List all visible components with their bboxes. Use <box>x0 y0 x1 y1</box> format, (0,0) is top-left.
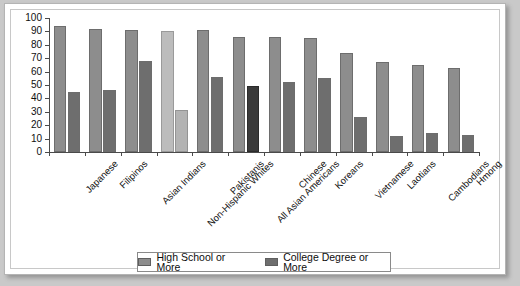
y-tick-label: 100 <box>25 13 42 23</box>
bar-college-degree <box>211 77 224 152</box>
bar-college-degree <box>283 82 296 152</box>
x-tick <box>300 152 301 156</box>
bar-high-school <box>89 29 102 152</box>
bar-college-degree <box>318 78 331 152</box>
bar-group <box>407 18 443 152</box>
bar-college-degree <box>68 92 81 152</box>
bar-high-school <box>412 65 425 152</box>
bar-high-school <box>376 62 389 152</box>
bar-group <box>228 18 264 152</box>
x-tick <box>157 152 158 156</box>
bar-group <box>49 18 85 152</box>
y-tick-label: 40 <box>31 93 42 103</box>
legend-item-high-school: High School or More <box>138 252 248 273</box>
legend-label-college-degree: College Degree or More <box>283 252 390 273</box>
bar-high-school <box>233 37 246 152</box>
legend-swatch-high-school <box>138 258 151 266</box>
x-tick <box>85 152 86 156</box>
x-tick <box>407 152 408 156</box>
y-tick-label: 50 <box>31 80 42 90</box>
bar-college-degree <box>139 61 152 152</box>
bar-group <box>300 18 336 152</box>
bar-high-school <box>125 30 138 152</box>
y-tick-label: 90 <box>31 26 42 36</box>
x-tick <box>121 152 122 156</box>
legend-swatch-college-degree <box>265 258 278 266</box>
x-tick <box>49 152 50 156</box>
bar-college-degree <box>426 133 439 152</box>
y-tick-label: 30 <box>31 107 42 117</box>
bar-high-school <box>304 38 317 152</box>
y-tick-label: 60 <box>31 67 42 77</box>
bar-college-degree <box>354 117 367 152</box>
bar-high-school <box>269 37 282 152</box>
bar-college-degree <box>390 136 403 152</box>
y-tick-label: 20 <box>31 120 42 130</box>
legend-label-high-school: High School or More <box>156 252 247 273</box>
plot-area: 0102030405060708090100 JapaneseFilipinos… <box>49 18 479 152</box>
bar-group <box>372 18 408 152</box>
y-tick-label: 10 <box>31 134 42 144</box>
x-tick <box>228 152 229 156</box>
y-tick-label: 80 <box>31 40 42 50</box>
bar-high-school <box>54 26 67 152</box>
bar-college-degree <box>247 86 260 152</box>
bar-college-degree <box>103 90 116 152</box>
x-tick <box>192 152 193 156</box>
legend-item-college-degree: College Degree or More <box>265 252 390 273</box>
x-tick <box>372 152 373 156</box>
x-tick <box>479 152 480 156</box>
bar-group <box>157 18 193 152</box>
y-tick-label: 70 <box>31 53 42 63</box>
x-tick <box>336 152 337 156</box>
bar-college-degree <box>175 110 188 152</box>
bar-group <box>264 18 300 152</box>
bar-group <box>336 18 372 152</box>
chart-card: 0102030405060708090100 JapaneseFilipinos… <box>4 3 506 275</box>
bar-group <box>443 18 479 152</box>
bar-group <box>192 18 228 152</box>
bar-high-school <box>340 53 353 152</box>
y-tick-label: 0 <box>36 147 42 157</box>
bar-high-school <box>197 30 210 152</box>
x-tick <box>443 152 444 156</box>
x-tick <box>264 152 265 156</box>
bar-group <box>85 18 121 152</box>
chart-legend: High School or More College Degree or Mo… <box>137 252 391 272</box>
bar-college-degree <box>462 135 475 152</box>
bar-group <box>121 18 157 152</box>
bar-high-school <box>161 31 174 152</box>
bar-high-school <box>448 68 461 152</box>
